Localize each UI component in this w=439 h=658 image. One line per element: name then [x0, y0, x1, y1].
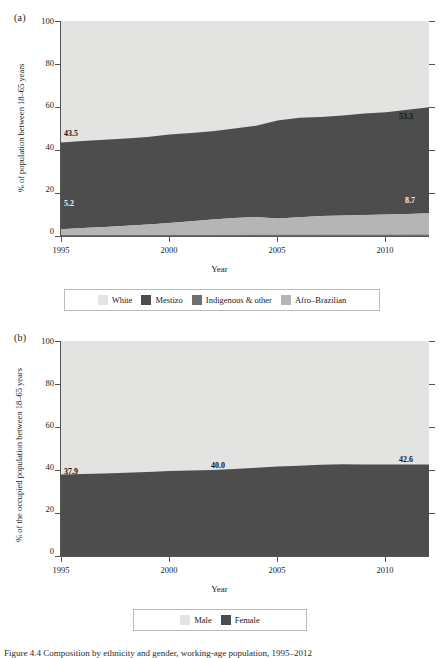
legend-label-white: White — [112, 295, 133, 305]
panel-a-annotation-5-2: 5.2 — [64, 199, 74, 208]
panel-a-x-axis-label: Year — [0, 264, 439, 274]
panel-a-ytick-mark-100 — [55, 21, 61, 22]
panel-a-ytick-100: 100 — [30, 16, 54, 26]
panel-b-right-tick-80 — [429, 384, 435, 385]
panel-b-ytick-20: 20 — [30, 504, 54, 514]
panel-b-ytick-60: 60 — [30, 420, 54, 430]
panel-a-ytick-60: 60 — [30, 100, 54, 110]
panel-b-ytick-80: 80 — [30, 378, 54, 388]
panel-b-xtick-2000: 2000 — [152, 565, 186, 575]
panel-a-right-tick-80 — [429, 64, 435, 65]
panel-b-xtick-mark-1995 — [61, 556, 62, 562]
panel-a-stacked-area — [61, 21, 429, 236]
panel-b-stacked-area — [61, 341, 429, 556]
panel-a-xtick-mark-2000 — [169, 236, 170, 242]
legend-swatch-female-icon — [221, 615, 231, 625]
legend-item-indigenous-other[interactable]: Indigenous & other — [192, 295, 272, 305]
legend-item-afro-brazilian[interactable]: Afro–Brazilian — [281, 295, 346, 305]
panel-a-ytick-mark-40 — [55, 150, 61, 151]
panel-a-right-tick-20 — [429, 193, 435, 194]
panel-b-right-tick-40 — [429, 470, 435, 471]
legend-item-mestizo[interactable]: Mestizo — [141, 295, 182, 305]
panel-b-right-tick-60 — [429, 427, 435, 428]
panel-a-xtick-2005: 2005 — [260, 245, 294, 255]
panel-b-right-tick-20 — [429, 513, 435, 514]
panel-a-xtick-1995: 1995 — [44, 245, 78, 255]
panel-b-ytick-mark-80 — [55, 384, 61, 385]
panel-a-ytick-40: 40 — [30, 142, 54, 152]
panel-a-ytick-mark-80 — [55, 64, 61, 65]
panel-b-xtick-mark-2005 — [277, 556, 278, 562]
panel-b-ytick-mark-20 — [55, 513, 61, 514]
panel-a-annotation-53-3: 53.3 — [399, 112, 413, 121]
panel-b-x-axis-label: Year — [0, 584, 439, 594]
legend-label-female: Female — [235, 615, 260, 625]
panel-b-xtick-mark-2000 — [169, 556, 170, 562]
panel-a-legend: White Mestizo Indigenous & other Afro–Br… — [64, 289, 380, 311]
panel-a-ytick-80: 80 — [30, 58, 54, 68]
panel-b-xtick-mark-2010 — [385, 556, 386, 562]
panel-a-ytick-mark-60 — [55, 107, 61, 108]
legend-swatch-indigenous-other-icon — [192, 295, 202, 305]
panel-a-right-tick-40 — [429, 150, 435, 151]
figure-page: (a) % of population between 18–65 years … — [0, 0, 439, 658]
chart-panel-a: (a) % of population between 18–65 years … — [0, 0, 439, 318]
panel-a-xtick-mark-2005 — [277, 236, 278, 242]
panel-a-plot-area — [61, 21, 429, 236]
legend-swatch-mestizo-icon — [141, 295, 151, 305]
panel-b-annotation-42-6: 42.6 — [399, 455, 413, 464]
panel-a-xtick-mark-1995 — [61, 236, 62, 242]
panel-a-ytick-20: 20 — [30, 184, 54, 194]
panel-b-legend: Male Female — [133, 609, 307, 631]
legend-label-afro-brazilian: Afro–Brazilian — [295, 295, 346, 305]
legend-label-indigenous-other: Indigenous & other — [206, 295, 272, 305]
panel-a-y-axis — [60, 21, 61, 237]
panel-b-y-axis-label: % of the occupied population between 18–… — [14, 340, 24, 570]
panel-b-xtick-2005: 2005 — [260, 565, 294, 575]
legend-swatch-afro-brazilian-icon — [281, 295, 291, 305]
panel-b-ytick-40: 40 — [30, 462, 54, 472]
panel-a-right-tick-100 — [429, 21, 435, 22]
panel-b-ytick-mark-100 — [55, 341, 61, 342]
panel-a-x-axis — [61, 236, 429, 237]
panel-b-xtick-1995: 1995 — [44, 565, 78, 575]
panel-a-ytick-mark-20 — [55, 193, 61, 194]
panel-b-plot-area — [61, 341, 429, 556]
panel-b-ytick-100: 100 — [30, 336, 54, 346]
panel-b-annotation-37-9: 37.9 — [64, 467, 78, 476]
panel-b-ytick-mark-60 — [55, 427, 61, 428]
legend-swatch-male-icon — [180, 615, 190, 625]
legend-item-male[interactable]: Male — [180, 615, 211, 625]
legend-swatch-white-icon — [98, 295, 108, 305]
panel-b-y-axis — [60, 341, 61, 557]
legend-label-mestizo: Mestizo — [155, 295, 182, 305]
panel-b-right-tick-100 — [429, 341, 435, 342]
chart-panel-b: (b) % of the occupied population between… — [0, 320, 439, 638]
panel-a-annotation-43-5: 43.5 — [64, 129, 78, 138]
panel-b-ytick-mark-40 — [55, 470, 61, 471]
panel-a-xtick-2010: 2010 — [368, 245, 402, 255]
panel-a-xtick-2000: 2000 — [152, 245, 186, 255]
panel-a-ytick-0: 0 — [30, 226, 54, 236]
panel-a-y-axis-label: % of population between 18–65 years — [16, 18, 26, 238]
panel-b-annotation-40-0: 40.0 — [211, 461, 225, 470]
panel-b-xtick-2010: 2010 — [368, 565, 402, 575]
area-female — [61, 464, 429, 556]
panel-a-xtick-mark-2010 — [385, 236, 386, 242]
figure-caption: Figure 4.4 Composition by ethnicity and … — [4, 648, 435, 658]
legend-label-male: Male — [194, 615, 211, 625]
panel-a-right-tick-60 — [429, 107, 435, 108]
panel-a-annotation-8-7: 8.7 — [405, 196, 415, 205]
panel-b-ytick-0: 0 — [30, 546, 54, 556]
legend-item-female[interactable]: Female — [221, 615, 260, 625]
legend-item-white[interactable]: White — [98, 295, 133, 305]
panel-b-x-axis — [61, 556, 429, 557]
